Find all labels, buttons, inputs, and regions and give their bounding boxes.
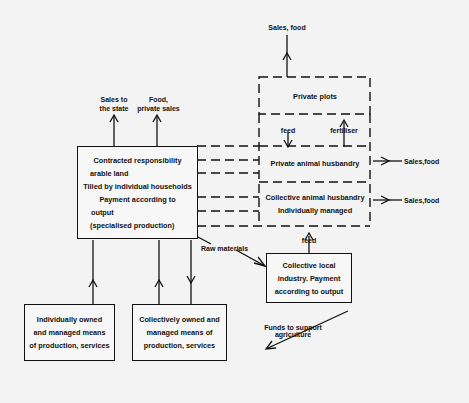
box-line: Collective animal husbandry [266,191,365,204]
box-line: and managed means [33,326,105,339]
sales-to-state-label: Sales to the state [94,95,134,113]
box-line: Payment according to [99,193,175,206]
box-line: arable land [90,167,129,180]
feed-top-label: feed [277,126,299,135]
box-line: Collective local [282,259,335,272]
box-line: according to output [275,285,344,298]
box-line: Contracted responsibility [94,154,182,167]
funds-to-support-agriculture-label: Funds to support agriculture [258,324,328,338]
private-animal-husbandry-box: Private animal husbandry [260,152,370,174]
collective-means-box: Collectively owned and managed means of … [132,304,227,361]
box-line: output [91,206,114,219]
label-line: Food, [131,95,186,104]
box-line: Individually managed [278,204,352,217]
box-line: industry. Payment [278,272,341,285]
label-line: Sales to [94,95,134,104]
private-plots-box: Private plots [260,82,370,110]
box-line: managed means of [146,326,212,339]
food-private-sales-label: Food, private sales [131,95,186,113]
box-line: Tilled by individual households [83,180,192,193]
collective-local-industry-box: Collective local industry. Payment accor… [266,253,352,303]
box-line: Private plots [293,90,337,103]
box-line: of production, services [29,339,109,352]
individual-means-box: Individually owned and managed means of … [24,304,115,361]
label-line: agriculture [258,331,328,338]
label-line: private sales [131,104,186,113]
sales-food-right-label-2: Sales,food [404,196,439,205]
label-line: the state [94,104,134,113]
collective-animal-husbandry-box: Collective animal husbandry Individually… [260,187,370,221]
feed-bottom-label: feed [298,236,320,245]
label-line: Funds to support [258,324,328,331]
raw-materials-label: Raw materials [201,244,248,253]
box-line: production, services [144,339,215,352]
fertiliser-label: fertiliser [325,126,363,135]
sales-food-top-label: Sales, food [262,23,312,32]
box-line: Individually owned [37,313,102,326]
contracted-responsibility-box: Contracted responsibility arable land Ti… [77,146,198,239]
box-line: (specialised production) [90,219,174,232]
box-line: Private animal husbandry [271,157,360,170]
box-line: Collectively owned and [139,313,220,326]
sales-food-right-label-1: Sales,food [404,157,439,166]
